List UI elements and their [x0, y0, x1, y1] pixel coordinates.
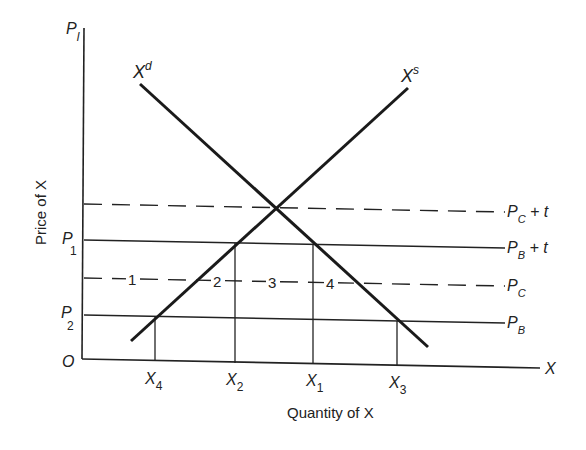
x-axis-end-label: X	[544, 360, 557, 377]
pc-label: PC	[507, 277, 526, 299]
region-label-3: 3	[268, 274, 276, 291]
p2-sub: 2	[67, 319, 74, 333]
price-line-pc-plus-t	[84, 204, 505, 212]
y-axis-top-label: Pl	[66, 20, 80, 44]
y-axis-title: Price of X	[32, 180, 49, 245]
price-line-pb-plus-t	[84, 240, 505, 248]
supply-curve	[131, 88, 408, 341]
x1-label: X1	[305, 372, 324, 395]
region-label-4: 4	[326, 275, 334, 292]
region-label-2: 2	[213, 273, 221, 290]
x3-label: X3	[388, 374, 407, 397]
x4-label: X4	[144, 370, 163, 393]
demand-label: Xd	[132, 59, 152, 82]
price-line-pc	[84, 278, 505, 286]
supply-label: Xs	[400, 63, 419, 86]
x-axis	[82, 359, 540, 368]
x2-label: X2	[225, 371, 244, 394]
price-line-pb	[84, 315, 505, 323]
demand-curve	[140, 84, 428, 347]
origin-label: O	[62, 353, 74, 370]
pb-plus-t-label: PB + t	[507, 239, 548, 261]
supply-demand-diagram: 1 2 3 4 Xd Xs Pl Price of X O P 1 P 2 PC…	[0, 0, 586, 450]
pc-plus-t-label: PC + t	[507, 203, 549, 225]
p1-sub: 1	[70, 244, 77, 258]
pb-label: PB	[507, 314, 525, 336]
y-axis	[82, 28, 84, 359]
region-label-1: 1	[128, 271, 136, 288]
x-axis-title: Quantity of X	[287, 404, 374, 421]
